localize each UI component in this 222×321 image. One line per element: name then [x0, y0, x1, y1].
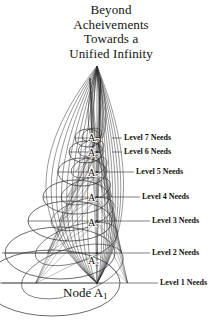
base-node-label: Node A1 — [63, 286, 108, 303]
base-node-subscript: 1 — [103, 291, 108, 301]
leader-line-group — [0, 0, 222, 321]
base-node-text: Node A — [63, 285, 103, 300]
diagram-canvas: Beyond Acheivements Towards a Unified In… — [0, 0, 222, 321]
